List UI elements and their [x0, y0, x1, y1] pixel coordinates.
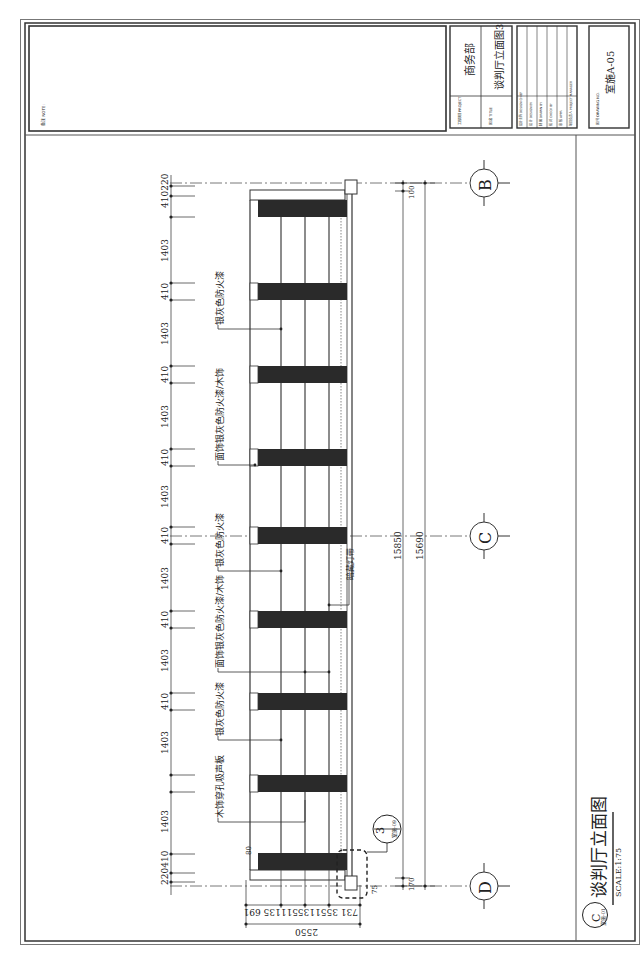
dim-height-chain: 731 3551135511135 691 — [243, 907, 358, 917]
dim-410: 410 — [160, 611, 170, 628]
sign-row-check: 校 对 CHECK BY — [549, 103, 553, 126]
annotation-hidden-light: 暗藏灯带 — [344, 548, 355, 580]
dim-410: 410 — [160, 283, 170, 300]
axis-label-b: B — [476, 179, 495, 191]
axis-label-c: C — [476, 532, 495, 544]
drawing-no-label: 图 号 DRAWING NO. — [595, 92, 600, 125]
annotation-silver-paint-wood-2: 面饰银灰色防火漆/木饰 — [213, 368, 226, 461]
dim-small-75: 75 — [371, 885, 379, 894]
dim-1403: 1403 — [160, 567, 170, 590]
sign-row-design-chief: 设计主持 DESIGN CHIEF — [519, 92, 523, 126]
sign-row-drawn: 制 图 DRAWN BY — [539, 102, 543, 126]
dim-small-80: 80 — [245, 846, 253, 855]
dim-overall-height: 2550 — [295, 927, 318, 937]
project-label: 工程项目 PROJECT — [457, 97, 462, 125]
annotation-silver-paint-wood: 面饰银灰色防火漆/木饰 — [213, 575, 226, 668]
project-name: 商务部 — [461, 43, 477, 76]
dim-1403: 1403 — [160, 405, 170, 428]
annotation-silver-paint-2: 银灰色防火漆 — [213, 513, 226, 567]
dim-1403: 1403 — [160, 485, 170, 508]
dim-410: 410 — [160, 449, 170, 466]
sign-row-pm: 项目负责人 PROJECT MANAGER — [569, 81, 573, 126]
sheet-title: 谈判厅立面图3 — [491, 24, 506, 90]
detail-callout-ref: 室施-09 — [390, 820, 397, 838]
sign-row-approve: 审 核 APPR. — [559, 109, 563, 126]
annotation-perforated-panel: 木饰穿孔吸声板 — [213, 755, 226, 818]
dim-overall-outer: 15690 — [415, 531, 425, 560]
detail-callout-number: 3 — [374, 827, 387, 834]
dim-1403: 1403 — [160, 322, 170, 345]
remarks-label: 备注 NOTE: — [40, 104, 46, 126]
dim-small-top: 100 — [408, 186, 416, 199]
drawing-title: 谈判厅立面图 — [585, 796, 610, 898]
title-label: 图 名 TITLE — [488, 107, 493, 125]
elevation-mark-ref: 室施-01 — [599, 908, 606, 926]
drawing-scale: SCALE:1:75 — [614, 848, 623, 897]
sign-row-designer: 设 计 DESIGN BY — [529, 102, 533, 126]
dim-1403: 1403 — [160, 649, 170, 672]
dim-1403: 1403 — [160, 731, 170, 754]
drawing-sheet: 备注 NOTE: 工程项目 PROJECT 商务部 图 名 TITLE 谈判厅立… — [0, 0, 644, 954]
dim-410: 410 — [160, 366, 170, 383]
drawing-number: 室施A-05 — [602, 51, 617, 94]
dim-410: 410 — [160, 527, 170, 544]
annotation-silver-paint: 银灰色防火漆 — [213, 682, 226, 736]
dim-overall-inner: 15850 — [393, 531, 403, 560]
dim-small-bottom: 170 — [408, 878, 416, 891]
annotation-silver-paint-3: 银灰色防火漆 — [213, 271, 226, 325]
axis-label-d: D — [476, 881, 495, 894]
dim-top-end: 410220 — [160, 174, 170, 208]
dim-bottom-end: 220410 — [160, 851, 170, 885]
dim-410: 410 — [160, 693, 170, 710]
dim-1403-last: 1403 — [160, 810, 170, 833]
elevation-drawing — [0, 0, 644, 954]
dim-1403: 1403 — [160, 239, 170, 262]
